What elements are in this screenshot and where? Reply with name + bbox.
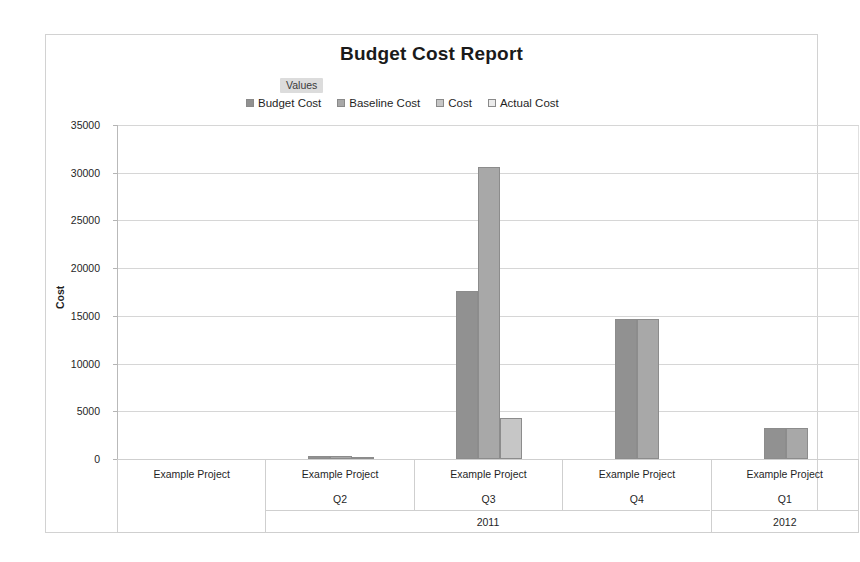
bar-group	[415, 125, 563, 459]
legend-item[interactable]: Actual Cost	[488, 97, 559, 109]
y-axis-tick-label: 10000	[71, 358, 100, 370]
x-axis-year-label: 2012	[712, 510, 858, 532]
plot-area	[117, 125, 859, 459]
chart-frame: Budget Cost Report Values Budget CostBas…	[45, 34, 818, 533]
x-axis-column: Example Project	[117, 459, 265, 533]
bar[interactable]	[478, 167, 500, 459]
x-axis-project-label: Example Project	[266, 460, 413, 487]
y-axis-tick-label: 25000	[71, 214, 100, 226]
x-axis-year-label: 2011	[266, 510, 709, 532]
legend-item-label: Cost	[448, 97, 472, 109]
legend-item-label: Baseline Cost	[349, 97, 420, 109]
x-axis-quarter-label: Q2	[266, 487, 413, 511]
y-axis-tick-label: 35000	[71, 119, 100, 131]
x-axis-quarter-label: Q3	[415, 487, 562, 511]
legend-item-label: Budget Cost	[258, 97, 321, 109]
legend-item-label: Actual Cost	[500, 97, 559, 109]
y-axis-tick-label: 20000	[71, 262, 100, 274]
legend-swatch-icon	[436, 99, 444, 107]
y-axis-ticks: 05000100001500020000250003000035000	[46, 35, 108, 532]
legend-swatch-icon	[488, 99, 496, 107]
bar[interactable]	[615, 319, 637, 459]
x-axis-project-label: Example Project	[712, 460, 858, 487]
bar-group	[712, 125, 860, 459]
legend-items: Budget CostBaseline CostCostActual Cost	[236, 97, 656, 109]
bar-group	[118, 125, 266, 459]
bar[interactable]	[637, 319, 659, 459]
x-axis-project-label: Example Project	[415, 460, 562, 487]
legend-item[interactable]: Budget Cost	[246, 97, 321, 109]
y-axis-tick-label: 0	[94, 453, 100, 465]
y-axis-tick-label: 30000	[71, 167, 100, 179]
bar[interactable]	[456, 291, 478, 459]
x-axis-project-label: Example Project	[563, 460, 710, 487]
bar[interactable]	[764, 428, 786, 459]
y-axis-tick-label: 5000	[77, 405, 100, 417]
legend-swatch-icon	[246, 99, 254, 107]
chart-legend: Values Budget CostBaseline CostCostActua…	[236, 75, 656, 109]
x-axis-quarter-label: Q4	[563, 487, 710, 511]
x-axis-quarter-label: Q1	[712, 487, 858, 511]
x-axis-year-spacer	[118, 511, 265, 532]
bar[interactable]	[500, 418, 522, 459]
x-axis-quarter-label	[118, 487, 265, 511]
y-axis-tick-label: 15000	[71, 310, 100, 322]
bar[interactable]	[786, 428, 808, 459]
x-axis-project-label: Example Project	[118, 460, 265, 487]
legend-swatch-icon	[337, 99, 345, 107]
legend-item[interactable]: Cost	[436, 97, 472, 109]
legend-title: Values	[280, 78, 323, 93]
bar-group	[563, 125, 711, 459]
legend-item[interactable]: Baseline Cost	[337, 97, 420, 109]
chart-title: Budget Cost Report	[46, 43, 817, 65]
bar-group	[266, 125, 414, 459]
